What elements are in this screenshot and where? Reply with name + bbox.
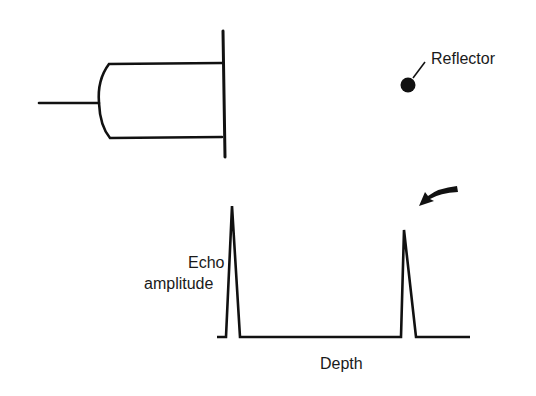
transducer-icon (39, 31, 225, 157)
curved-arrow-icon (419, 186, 458, 206)
depth-axis-label: Depth (320, 355, 363, 373)
transducer-body (99, 63, 222, 138)
echo-label: Echo (188, 254, 224, 272)
amplitude-label: amplitude (144, 275, 213, 293)
reflector-label: Reflector (431, 50, 495, 68)
reflector-icon (401, 62, 426, 93)
echo-trace (217, 206, 470, 337)
transducer-face (223, 31, 225, 157)
